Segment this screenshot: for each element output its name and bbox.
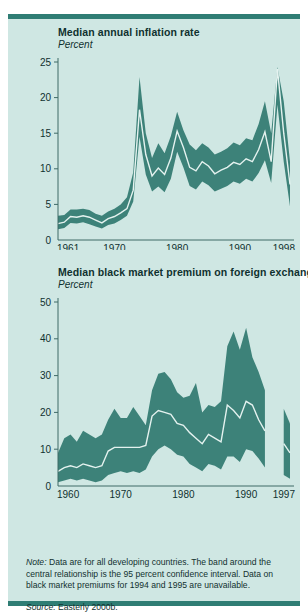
source-label: Source:: [26, 602, 56, 612]
svg-text:1980: 1980: [172, 489, 195, 500]
svg-text:10: 10: [40, 444, 52, 455]
svg-text:25: 25: [40, 57, 52, 68]
svg-text:1997: 1997: [273, 489, 296, 500]
chart2-title: Median black market premium on foreign e…: [58, 266, 308, 278]
note-line-3: black market premiums for 1994 and 1995 …: [26, 580, 294, 592]
svg-text:50: 50: [40, 297, 52, 308]
figure-note: Note: Data are for all developing countr…: [26, 557, 294, 592]
svg-text:30: 30: [40, 370, 52, 381]
chart-black-market-premium: Median black market premium on foreign e…: [8, 266, 300, 541]
svg-text:1961: 1961: [57, 243, 80, 250]
svg-text:40: 40: [40, 333, 52, 344]
svg-text:20: 20: [40, 407, 52, 418]
svg-text:1990: 1990: [229, 243, 252, 250]
chart1-subtitle: Percent: [58, 39, 92, 50]
figure-container: Median annual inflation rate Percent 051…: [0, 0, 308, 613]
svg-text:15: 15: [40, 128, 52, 139]
svg-text:1960: 1960: [57, 489, 80, 500]
svg-text:10: 10: [40, 163, 52, 174]
svg-text:0: 0: [45, 235, 51, 246]
figure-source: Source: Easterly 2000b.: [26, 602, 294, 613]
svg-text:1990: 1990: [235, 489, 258, 500]
source-text: Easterly 2000b.: [56, 602, 118, 612]
svg-text:1980: 1980: [166, 243, 189, 250]
svg-text:1970: 1970: [103, 243, 126, 250]
chart2-subtitle: Percent: [58, 279, 92, 290]
chart2-plot-area: 01020304050 19601970198019901997: [8, 290, 300, 505]
chart-inflation-rate: Median annual inflation rate Percent 051…: [8, 26, 300, 271]
svg-text:20: 20: [40, 92, 52, 103]
chart1-title: Median annual inflation rate: [58, 26, 200, 38]
note-line-1: Data are for all developing countries. T…: [47, 557, 271, 567]
svg-text:0: 0: [45, 481, 51, 492]
svg-text:1970: 1970: [110, 489, 133, 500]
svg-text:5: 5: [45, 199, 51, 210]
panel-content: Median annual inflation rate Percent 051…: [8, 14, 300, 606]
note-label: Note:: [26, 557, 47, 567]
chart1-plot-area: 0510152025 19611970198019901998: [8, 50, 300, 250]
svg-text:1998: 1998: [273, 243, 296, 250]
note-line-2: central relationship is the 95 percent c…: [26, 569, 294, 581]
